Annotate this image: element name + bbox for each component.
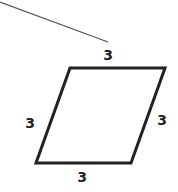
pointer-line xyxy=(0,2,108,42)
label-top: 3 xyxy=(103,47,113,63)
label-bottom: 3 xyxy=(77,169,87,185)
rhombus-diagram: 3 3 3 3 xyxy=(0,0,178,192)
label-left: 3 xyxy=(25,115,35,131)
rhombus-shape xyxy=(36,68,165,163)
label-right: 3 xyxy=(157,112,167,128)
